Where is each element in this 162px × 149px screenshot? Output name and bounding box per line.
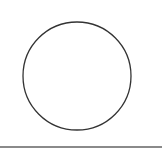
diagram-canvas — [0, 0, 162, 149]
circle-shape — [23, 22, 131, 130]
bottom-divider — [0, 146, 162, 148]
